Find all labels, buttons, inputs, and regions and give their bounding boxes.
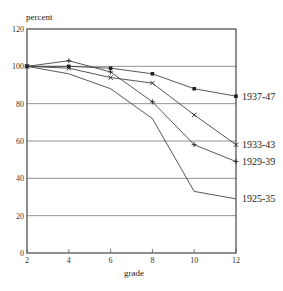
x-tick-label: 6 xyxy=(109,256,113,265)
series-line xyxy=(27,61,236,162)
square-marker-icon xyxy=(151,72,155,76)
x-marker-icon xyxy=(192,113,196,117)
y-tick-label: 40 xyxy=(16,174,24,183)
x-tick-label: 12 xyxy=(232,256,240,265)
x-axis-title: grade xyxy=(124,268,144,278)
y-tick-label: 20 xyxy=(16,212,24,221)
series-label: 1929-39 xyxy=(242,156,275,167)
x-tick-label: 2 xyxy=(25,256,29,265)
y-tick-label: 120 xyxy=(12,25,24,34)
y-axis-title: percent xyxy=(26,12,53,22)
series-line xyxy=(27,66,236,144)
series-1937-47 xyxy=(25,65,238,98)
y-tick-label: 0 xyxy=(20,249,24,258)
series-labels: 1937-471933-431929-391925-35 xyxy=(242,91,275,205)
y-axis-ticks: 020406080100120 xyxy=(12,25,24,258)
square-marker-icon xyxy=(234,94,238,98)
x-axis-ticks: 24681012 xyxy=(25,249,240,265)
square-marker-icon xyxy=(192,87,196,91)
x-tick-label: 4 xyxy=(67,256,71,265)
series-1933-43 xyxy=(25,64,238,147)
line-chart: 020406080100120 24681012 1937-471933-431… xyxy=(0,0,283,291)
x-tick-label: 10 xyxy=(190,256,198,265)
series-label: 1933-43 xyxy=(242,139,275,150)
x-tick-label: 8 xyxy=(150,256,154,265)
series-line xyxy=(27,66,236,96)
series-1929-39 xyxy=(25,58,239,164)
plus-marker-icon xyxy=(66,58,71,63)
y-tick-label: 60 xyxy=(16,137,24,146)
y-tick-label: 100 xyxy=(12,62,24,71)
series-label: 1937-47 xyxy=(242,91,275,102)
y-tick-label: 80 xyxy=(16,100,24,109)
series-label: 1925-35 xyxy=(242,193,275,204)
plus-marker-icon xyxy=(234,159,239,164)
series-line xyxy=(27,66,236,199)
series-1925-35 xyxy=(27,66,236,199)
series-lines xyxy=(25,58,239,199)
